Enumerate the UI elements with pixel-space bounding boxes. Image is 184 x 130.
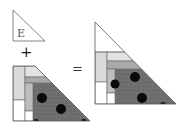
equals-operator: = (72, 61, 83, 76)
quilt-piece-diagram: E + = (0, 0, 184, 130)
dot (111, 80, 120, 89)
dot (37, 93, 47, 103)
dot (160, 102, 166, 108)
plus-operator: + (20, 43, 33, 61)
dot (130, 72, 140, 82)
pieced-block-left (13, 66, 103, 125)
small-triangle-piece: E (13, 10, 45, 41)
dot (33, 119, 39, 125)
dot (81, 119, 87, 125)
dot (56, 104, 66, 114)
dot (137, 93, 147, 103)
piece-label-e: E (17, 27, 25, 40)
